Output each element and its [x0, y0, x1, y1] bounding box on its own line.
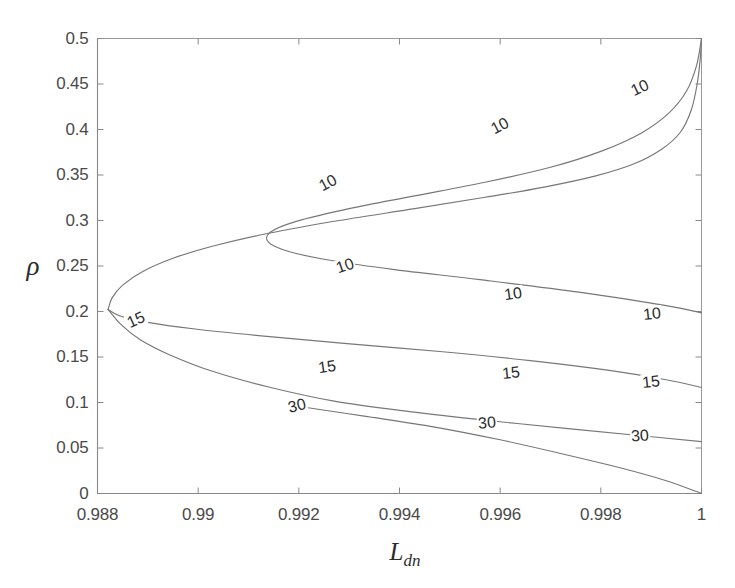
contour-label-10-f: 10	[641, 305, 662, 323]
contour-label-30-c: 30	[630, 427, 651, 444]
contour-label-15-d: 15	[640, 373, 661, 391]
xtick-label-5: 0.998	[580, 505, 622, 525]
ytick-label-7: 0.35	[56, 165, 88, 185]
ytick-label-3: 0.15	[56, 347, 88, 367]
ytick-label-9: 0.45	[56, 74, 88, 94]
contour-30-lower	[306, 408, 701, 494]
ytick-label-1: 0.05	[56, 438, 88, 458]
contour-label-15-c: 15	[501, 364, 522, 382]
ytick-label-4: 0.2	[65, 302, 88, 322]
axis-spine-top-right	[98, 39, 702, 494]
x-axis-title: Ldn	[390, 538, 421, 571]
ytick-label-5: 0.25	[56, 256, 88, 276]
plot-canvas	[0, 0, 735, 588]
contour-label-30-b: 30	[476, 415, 497, 433]
xtick-label-0: 0.988	[77, 505, 119, 525]
xtick-label-3: 0.994	[379, 505, 421, 525]
x-axis-title-subscript: dn	[403, 551, 420, 570]
contour-label-15-b: 15	[316, 358, 338, 377]
contour-plot-figure: 1010101010101515151530303000.050.10.150.…	[0, 0, 735, 588]
contour-label-10-e: 10	[502, 285, 524, 304]
xtick-label-2: 0.992	[278, 505, 320, 525]
y-axis-title: ρ	[27, 251, 40, 282]
contour-15-contour	[108, 310, 701, 388]
xtick-label-6: 1	[697, 505, 706, 525]
ytick-label-6: 0.3	[65, 211, 88, 231]
xtick-label-4: 0.996	[479, 505, 521, 525]
ytick-label-0: 0	[79, 484, 88, 504]
contour-outer-10-upper	[108, 39, 701, 310]
ytick-label-8: 0.4	[65, 120, 88, 140]
axis-spine-left-bottom	[98, 39, 702, 494]
ytick-label-10: 0.5	[65, 29, 88, 49]
xtick-label-1: 0.99	[182, 505, 214, 525]
ytick-label-2: 0.1	[65, 393, 88, 413]
x-axis-title-base: L	[390, 538, 404, 565]
